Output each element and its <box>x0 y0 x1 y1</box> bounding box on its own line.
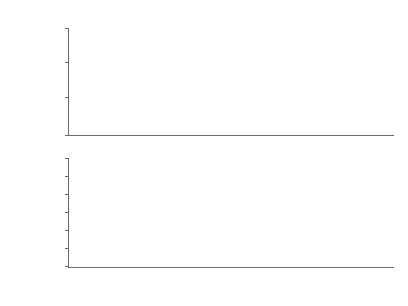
axes-coeff <box>65 159 394 268</box>
figure-root <box>0 0 408 306</box>
plot-area-coeff <box>0 0 408 306</box>
